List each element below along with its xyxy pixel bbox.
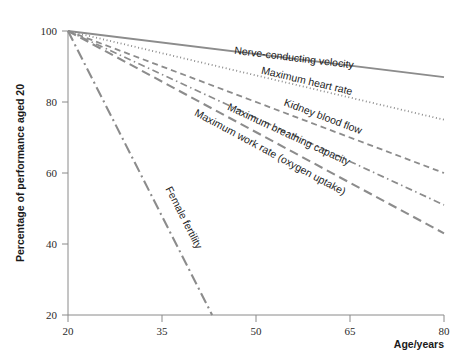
x-tick-label: 65 [345, 325, 357, 337]
x-axis-title: Age/years [394, 338, 444, 350]
x-tick-label: 50 [251, 325, 263, 337]
y-tick-label: 80 [46, 96, 58, 108]
y-tick-label: 40 [46, 238, 58, 250]
axes-group [68, 31, 444, 315]
y-tick-label: 100 [41, 25, 58, 37]
line-chart: 20406080100 2035506580 Nerve-conducting … [0, 0, 468, 362]
series-line-1 [68, 31, 444, 120]
series-labels-group: Nerve-conducting velocityMaximum heart r… [164, 44, 365, 251]
series-line-4 [68, 31, 444, 233]
y-axis-ticks: 20406080100 [41, 25, 69, 321]
y-tick-label: 20 [46, 309, 58, 321]
series-label-5: Female fertility [164, 184, 206, 251]
figure-container: 20406080100 2035506580 Nerve-conducting … [0, 0, 468, 362]
series-lines-group [68, 31, 444, 315]
x-axis-ticks: 2035506580 [63, 315, 451, 337]
series-line-5 [68, 31, 212, 315]
series-label-0: Nerve-conducting velocity [234, 44, 356, 71]
x-tick-label: 20 [63, 325, 75, 337]
y-axis-title: Percentage of performance aged 20 [14, 84, 26, 262]
x-tick-label: 80 [439, 325, 451, 337]
y-tick-label: 60 [46, 167, 58, 179]
x-tick-label: 35 [157, 325, 169, 337]
